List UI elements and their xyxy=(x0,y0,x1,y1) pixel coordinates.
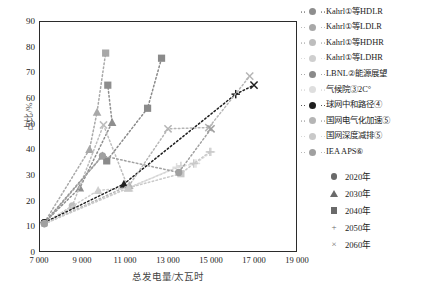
legend-marker-icon xyxy=(300,68,326,81)
legend-cross-icon: × xyxy=(326,239,342,249)
legend-item-5[interactable]: 气候院③2C° xyxy=(300,82,431,98)
legend-label: 国网电气化加速⑤ xyxy=(326,117,390,125)
legend-item-2[interactable]: Kahrl①等HDHR xyxy=(300,35,431,51)
legend-label: 球网中和路径④ xyxy=(326,101,382,109)
legend-item-0[interactable]: Kahrl①等HDLR xyxy=(300,4,431,20)
legend-item-6[interactable]: 球网中和路径④ xyxy=(300,98,431,114)
legend-year-label: 2040年 xyxy=(342,204,371,216)
legend-marker-icon xyxy=(300,146,326,159)
legend-label: Kahrl①等HDHR xyxy=(326,39,384,47)
legend-marker-icon xyxy=(300,5,326,18)
legend-marker-icon xyxy=(300,52,326,65)
legend-circle-icon xyxy=(326,173,342,180)
x-tick-label: 13 000 xyxy=(156,255,179,265)
legend-item-4[interactable]: LBNL②能源展望 xyxy=(300,66,431,82)
legend-marker-icon xyxy=(300,36,326,49)
legend-label: Kahrl①等LDHR xyxy=(326,54,383,62)
legend-marker-icon xyxy=(300,83,326,96)
x-tick-label: 15 000 xyxy=(199,255,222,265)
legend-label: 国网深度减排⑤ xyxy=(326,132,382,140)
legend-year-item-0[interactable]: 2020年 xyxy=(300,168,431,185)
scatter-chart: 0102030405060708090 占比/% 7 0009 00011 00… xyxy=(0,0,431,295)
legend-label: LBNL②能源展望 xyxy=(326,70,387,78)
legend-divider xyxy=(300,160,431,168)
legend-item-8[interactable]: 国网深度减排⑤ xyxy=(300,129,431,145)
x-tick-label: 7 000 xyxy=(29,255,48,265)
x-tick-label: 17 000 xyxy=(242,255,265,265)
chart-legend: Kahrl①等HDLRKahrl①等LDLRKahrl①等HDHRKahrl①等… xyxy=(300,4,431,253)
legend-label: Kahrl①等LDLR xyxy=(326,23,382,31)
x-axis-label: 总发电量/太瓦时 xyxy=(39,269,297,283)
legend-year-label: 2030年 xyxy=(342,187,371,199)
legend-square-icon xyxy=(326,207,342,214)
x-tick-label: 9 000 xyxy=(72,255,91,265)
legend-marker-icon xyxy=(300,21,326,34)
x-tick-label: 11 000 xyxy=(113,255,136,265)
legend-item-1[interactable]: Kahrl①等LDLR xyxy=(300,20,431,36)
legend-item-3[interactable]: Kahrl①等LDHR xyxy=(300,51,431,67)
legend-label: IEA APS⑥ xyxy=(326,148,364,156)
legend-triangle-icon xyxy=(326,190,342,197)
legend-label: Kahrl①等HDLR xyxy=(326,8,383,16)
legend-item-9[interactable]: IEA APS⑥ xyxy=(300,144,431,160)
legend-year-item-4[interactable]: ×2060年 xyxy=(300,236,431,253)
legend-year-item-3[interactable]: +2050年 xyxy=(300,219,431,236)
legend-marker-icon xyxy=(300,114,326,127)
legend-year-label: 2050年 xyxy=(342,221,371,233)
legend-year-label: 2020年 xyxy=(342,170,371,182)
x-tick-label: 19 000 xyxy=(285,255,308,265)
legend-plus-icon: + xyxy=(326,222,342,232)
legend-year-item-1[interactable]: 2030年 xyxy=(300,185,431,202)
legend-year-label: 2060年 xyxy=(342,238,371,250)
legend-marker-icon xyxy=(300,99,326,112)
legend-year-item-2[interactable]: 2040年 xyxy=(300,202,431,219)
legend-label: 气候院③2C° xyxy=(326,86,371,94)
legend-marker-icon xyxy=(300,130,326,143)
legend-item-7[interactable]: 国网电气化加速⑤ xyxy=(300,113,431,129)
